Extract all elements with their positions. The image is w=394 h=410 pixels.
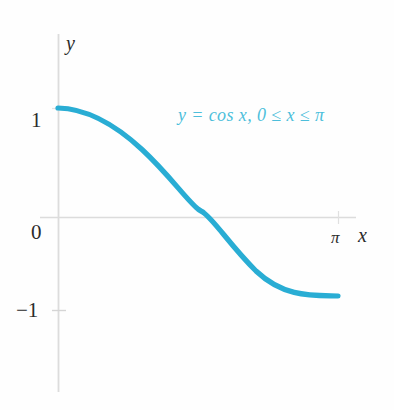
x-tick-label-pi: π bbox=[331, 229, 340, 246]
plot-canvas bbox=[0, 0, 394, 410]
cosine-graph-figure: 1 0 −1 y x π y = cos x, 0 ≤ x ≤ π bbox=[0, 0, 394, 410]
equation-annotation: y = cos x, 0 ≤ x ≤ π bbox=[178, 106, 324, 124]
y-tick-label-1: 1 bbox=[31, 110, 42, 131]
cosine-curve bbox=[58, 108, 338, 296]
y-tick-label-0: 0 bbox=[31, 222, 42, 243]
y-axis-label: y bbox=[66, 33, 75, 53]
x-axis-label: x bbox=[358, 225, 367, 245]
y-tick-label-negative-1: −1 bbox=[16, 300, 38, 321]
